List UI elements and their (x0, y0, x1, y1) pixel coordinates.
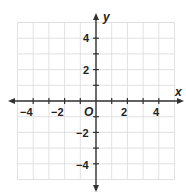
y-axis (93, 13, 99, 192)
x-axis-label: x (174, 85, 183, 99)
x-tick-label: −2 (51, 106, 64, 118)
x-axis-left-arrow-icon (8, 98, 15, 104)
x-tick-label: 4 (153, 106, 160, 118)
y-axis-up-arrow-icon (93, 13, 99, 20)
x-tick-label: 2 (121, 106, 127, 118)
coordinate-plane: y x O −4 −2 2 4 4 2 −2 −4 (0, 0, 186, 194)
y-tick-label: 2 (83, 64, 89, 76)
y-axis-down-arrow-icon (93, 185, 99, 192)
y-tick-label: −2 (76, 127, 89, 139)
y-tick-label: 4 (83, 32, 90, 44)
y-axis-label: y (102, 10, 111, 24)
x-tick-label: −4 (20, 106, 33, 118)
y-tick-label: −4 (76, 159, 89, 171)
origin-label: O (84, 105, 94, 119)
